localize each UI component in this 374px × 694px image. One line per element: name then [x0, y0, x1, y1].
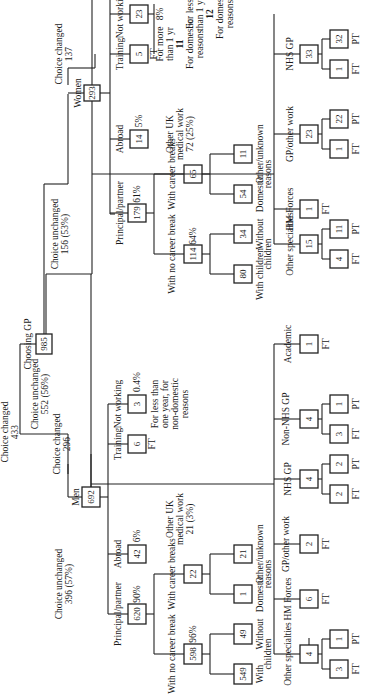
women-nhs-value: 33 — [304, 50, 314, 59]
women-with-children-value: 80 — [238, 270, 248, 279]
women-nhs-ft: 1 — [334, 67, 344, 72]
men-abroad-pct: 6% — [132, 530, 142, 543]
men-without-children-value: 49 — [238, 630, 248, 639]
ft-label: FT — [351, 253, 361, 264]
women-principal-value: 179 — [132, 206, 142, 220]
men-principal-value: 620 — [132, 607, 142, 621]
men-other-value: 21 — [238, 550, 248, 559]
men-training-ft: FT — [147, 438, 157, 449]
men-os-value: 4 — [304, 652, 314, 657]
men-nhs-label: NHS GP — [283, 462, 293, 496]
men-notworking-pct: 0.4% — [132, 372, 142, 392]
men-value: 692 — [86, 490, 96, 504]
women-reasons-label: reasons — [263, 160, 273, 189]
pt-label: PT — [351, 113, 361, 124]
men-gpo-label: GP/other work — [281, 516, 291, 572]
women-principal-pct: 61% — [132, 185, 142, 202]
women-domestic-value: 54 — [238, 190, 248, 199]
pt-label: PT — [351, 458, 361, 469]
pt-label: PT — [351, 33, 361, 44]
men-breaks-label: With career breaks — [167, 538, 177, 609]
root-value: 985 — [39, 337, 49, 351]
men-notworking-note: For less thanone year, fornon-domesticre… — [150, 378, 190, 430]
women-training-label: Training — [115, 38, 125, 70]
women-hm-ft: FT — [321, 203, 331, 214]
men-abroad-label: Abroad — [113, 540, 123, 569]
men-os-ft: 3 — [334, 667, 344, 672]
men-academic-ft: FT — [321, 338, 331, 349]
women-notworking-label: Not working — [115, 0, 125, 38]
women-changed-label: Choice changed433 — [0, 402, 20, 463]
women-notworking-value: 23 — [134, 10, 144, 19]
women-hm-label: HM Forces — [285, 187, 295, 230]
women-gpo-ft: 1 — [334, 147, 344, 152]
men-breaks-value: 22 — [188, 570, 198, 579]
men-nobreak-label: With no career break — [167, 614, 177, 694]
women-otheruk-label: Other UKmedical work72 (25%) — [165, 108, 195, 160]
pt-label: PT — [351, 398, 361, 409]
women-hm-value: 1 — [304, 207, 314, 212]
women-nw-less-label: For lessthan 1 yr12For domesticreasons — [185, 0, 235, 39]
women-other-value: 11 — [238, 150, 248, 159]
men-nonnhs-value: 4 — [304, 417, 314, 422]
men-academic-value: 1 — [304, 342, 314, 347]
men-notworking-value: 3 — [132, 402, 142, 407]
men-domestic-value: 1 — [238, 592, 248, 597]
men-os-pt: 1 — [334, 637, 344, 642]
women-os-pt: 11 — [334, 225, 344, 234]
women-nobreak-value: 114 — [188, 247, 198, 260]
men-hm-value: 6 — [304, 597, 314, 602]
men-nonnhs-label: Non-NHS GP — [281, 392, 291, 445]
men-hm-ft: FT — [321, 593, 331, 604]
men-nobreak-pct: 96% — [188, 625, 198, 642]
men-children-label: children — [263, 638, 273, 669]
men-nonnhs-pt: 1 — [334, 402, 344, 407]
men-nhs-ft: 2 — [334, 492, 344, 497]
ft-label: FT — [351, 428, 361, 439]
women-children-label: children — [263, 238, 273, 269]
men-training-value: 6 — [132, 442, 142, 447]
men-training-label: Training — [113, 428, 123, 460]
women-principal-label: Principal/partner — [115, 181, 125, 245]
women-choice-changed: Choice changed137 — [54, 24, 74, 85]
men-academic-label: Academic — [283, 325, 293, 364]
men-principal-label: Principal/partner — [113, 582, 123, 646]
women-unchanged-label: Choice unchanged156 (53%) — [50, 199, 70, 269]
men-label: Men — [71, 488, 81, 505]
men-nonnhs-ft: 3 — [334, 432, 344, 437]
women-label: Women — [73, 78, 83, 107]
women-nhs-label: NHS GP — [285, 37, 295, 71]
women-training-value: 5 — [134, 52, 144, 57]
men-reasons-label: reasons — [263, 560, 273, 589]
ft-label: FT — [351, 663, 361, 674]
women-without-children-value: 34 — [238, 230, 248, 239]
men-changed-label: Choice changed296 — [52, 414, 72, 475]
men-nhs-pt: 2 — [334, 462, 344, 467]
women-os-value: 15 — [304, 240, 314, 249]
men-os-label: Other specialties — [283, 622, 293, 686]
women-abroad-pct: 5% — [134, 115, 144, 128]
men-choice-unchanged: Choice unchanged396 (57%) — [54, 549, 74, 619]
men-nobreak-value: 598 — [188, 647, 198, 661]
men-unchanged-label: Choice unchanged552 (56%) — [30, 359, 50, 429]
women-abroad-label: Abroad — [115, 125, 125, 154]
women-gpo-pt: 22 — [334, 115, 344, 124]
women-abroad-value: 14 — [134, 135, 144, 144]
ft-label: FT — [351, 488, 361, 499]
career-tree-diagram: 985 Choosing GP Choice changed433 Choice… — [0, 0, 374, 694]
women-gpo-label: GP/other work — [285, 106, 295, 162]
women-nobreak-label: With no career break — [167, 214, 177, 294]
men-nhs-value: 4 — [304, 477, 314, 482]
women-os-ft: 4 — [334, 257, 344, 262]
men-gpo-ft: FT — [321, 538, 331, 549]
men-principal-pct: 90% — [132, 585, 142, 602]
women-gpo-value: 23 — [304, 130, 314, 139]
ft-label: FT — [351, 63, 361, 74]
men-notworking-label: Not working — [113, 380, 123, 428]
men-with-children-value: 549 — [238, 667, 248, 681]
men-hm-label: HM Forces — [283, 577, 293, 620]
women-value: 293 — [87, 86, 97, 100]
women-nobreak-pct: 64% — [188, 227, 198, 244]
men-abroad-value: 42 — [132, 550, 142, 559]
pt-label: PT — [351, 223, 361, 234]
